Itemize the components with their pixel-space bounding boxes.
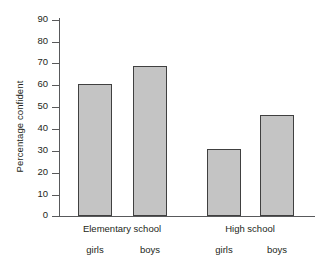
y-axis-tick: 50 (52, 107, 59, 108)
y-axis-tick: 40 (52, 129, 59, 130)
y-axis-tick-label: 80 (37, 35, 48, 46)
y-axis-tick-label: 10 (37, 188, 48, 199)
y-axis-tick-label: 30 (37, 144, 48, 155)
y-axis-tick-label: 70 (37, 56, 48, 67)
y-axis-tick: 80 (52, 42, 59, 43)
y-axis-tick: 0 (52, 216, 59, 217)
y-axis-tick: 60 (52, 85, 59, 86)
x-axis-sub-label: boys (242, 244, 312, 255)
bar-chart: Percentage confident 9080706050403020100… (0, 0, 325, 264)
y-axis-tick: 20 (52, 173, 59, 174)
plot-area (59, 18, 315, 216)
bar (78, 84, 112, 216)
y-axis-tick: 30 (52, 151, 59, 152)
y-axis-tick-label: 60 (37, 78, 48, 89)
x-axis-sub-label: boys (115, 244, 185, 255)
y-axis-tick-label: 40 (37, 122, 48, 133)
y-axis-tick: 90 (52, 20, 59, 21)
x-axis-line (59, 216, 315, 217)
x-axis-group-label: High school (180, 223, 320, 234)
bar (207, 149, 241, 216)
y-axis-tick: 10 (52, 195, 59, 196)
y-axis-tick-label: 20 (37, 166, 48, 177)
x-axis-group-label: Elementary school (52, 223, 192, 234)
bar (260, 115, 294, 216)
y-axis-tick-label: 50 (37, 100, 48, 111)
y-axis-title: Percentage confident (14, 37, 25, 217)
y-axis-tick: 70 (52, 63, 59, 64)
y-axis-tick-label: 90 (37, 13, 48, 24)
bar (133, 66, 167, 216)
y-axis-tick-label: 0 (43, 209, 48, 220)
